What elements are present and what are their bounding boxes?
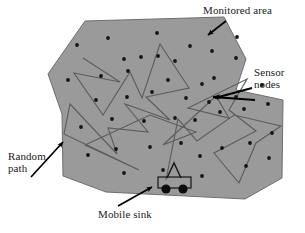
sensor-node — [242, 107, 246, 111]
sensor-node — [114, 147, 118, 151]
sensor-node — [218, 110, 222, 114]
sensor-node — [248, 141, 252, 145]
sensor-node — [142, 119, 146, 123]
diagram-canvas — [0, 0, 305, 233]
mobile-sink-label: Mobile sink — [98, 208, 152, 220]
sensor-node — [200, 82, 204, 86]
figure-monitored-area-diagram: Monitored area Sensor nodes Random path … — [0, 0, 305, 233]
sensor-node — [106, 36, 110, 40]
mobile-sink-wheel — [161, 184, 170, 193]
sensor-node — [126, 69, 130, 73]
sensor-node — [161, 168, 165, 172]
monitored-area-polygon — [48, 17, 283, 199]
sensor-nodes-label: Sensor nodes — [254, 66, 285, 90]
sensor-node — [150, 90, 154, 94]
sensor-node — [110, 117, 114, 121]
sensor-node — [173, 116, 177, 120]
sensor-node — [125, 95, 129, 99]
sensor-node — [179, 141, 183, 145]
sensor-node — [200, 174, 204, 178]
sensor-node — [66, 78, 70, 82]
sensor-node — [220, 146, 224, 150]
sensor-node — [267, 156, 271, 160]
sensor-node — [139, 55, 143, 59]
sensor-node — [193, 118, 197, 122]
sensor-node — [148, 145, 152, 149]
sensor-node — [166, 78, 170, 82]
sensor-node — [234, 56, 238, 60]
sensor-node — [266, 102, 270, 106]
sensor-node — [75, 43, 79, 47]
sensor-node — [207, 100, 211, 104]
sensor-node — [184, 96, 188, 100]
sensor-node — [94, 98, 98, 102]
sensor-node — [210, 49, 214, 53]
sensor-node — [122, 57, 126, 61]
random-path-label: Random path — [8, 150, 46, 174]
sensor-node — [79, 125, 83, 129]
sensor-node — [198, 154, 202, 158]
sensor-node — [86, 153, 90, 157]
mobile-sink-wheel — [178, 184, 187, 193]
sensor-node — [235, 35, 239, 39]
sensor-node — [173, 59, 177, 63]
sensor-node — [156, 54, 160, 58]
sensor-node — [155, 31, 159, 35]
sensor-node — [99, 74, 103, 78]
sensor-node — [244, 164, 248, 168]
sensor-node — [122, 171, 126, 175]
sensor-node — [212, 76, 216, 80]
monitored-area-label: Monitored area — [203, 4, 272, 16]
sensor-node — [270, 131, 274, 135]
sensor-node — [188, 44, 192, 48]
